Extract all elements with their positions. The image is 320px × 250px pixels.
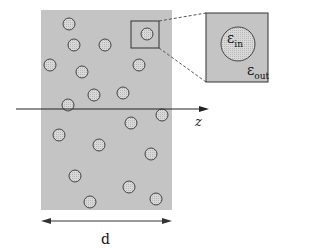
thickness-label: d [101, 231, 110, 247]
epsilon-in-label: εin [227, 30, 243, 46]
subscript-out: out [254, 71, 269, 81]
epsilon-out-label: εout [247, 62, 269, 78]
z-axis-arrowhead [199, 106, 209, 112]
subscript-in: in [234, 39, 243, 49]
thickness-arrowhead-left [41, 218, 51, 224]
z-axis-label: z [195, 114, 202, 129]
thickness-arrowhead-right [162, 218, 172, 224]
